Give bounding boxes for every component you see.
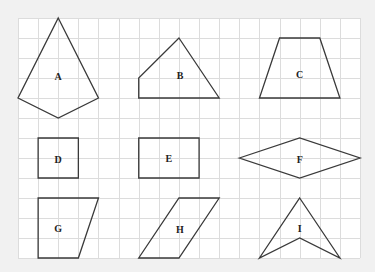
shape-label-f: F xyxy=(297,154,303,165)
shapes-diagram: ABCDEFGHI xyxy=(0,0,375,272)
shape-label-d: D xyxy=(55,154,62,165)
shape-label-b: B xyxy=(177,70,184,81)
shape-label-a: A xyxy=(55,71,63,82)
shape-label-i: I xyxy=(298,223,302,234)
shape-label-g: G xyxy=(54,223,62,234)
shape-label-c: C xyxy=(296,69,303,80)
shape-label-e: E xyxy=(166,153,173,164)
shape-label-h: H xyxy=(176,224,184,235)
